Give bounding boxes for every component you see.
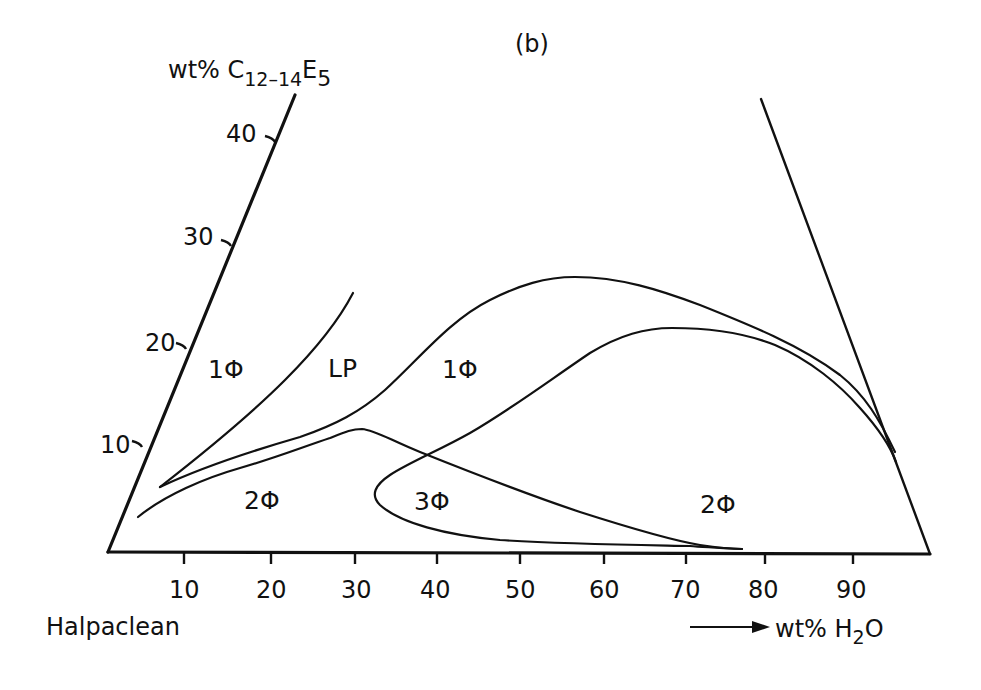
region-label-1phi-center: 1Φ <box>442 355 478 384</box>
panel-label: (b) <box>515 30 549 58</box>
phase-diagram: (b) wt% C12–14E5 10 20 30 40 10 20 30 40… <box>0 0 981 690</box>
bottom-tick-90: 90 <box>836 576 867 604</box>
right-arrow-head-icon <box>752 621 770 633</box>
left-tick-20: 20 <box>145 329 176 357</box>
bottom-axis-title: wt% H2O <box>690 615 884 648</box>
left-axis-title-suffix-subscript: 5 <box>317 66 331 91</box>
bottom-axis-ticks: 10 20 30 40 50 60 70 80 90 <box>169 553 867 604</box>
boundary-1phi-lp <box>160 293 353 487</box>
region-label-1phi-left: 1Φ <box>208 355 244 384</box>
bottom-tick-60: 60 <box>589 576 620 604</box>
left-axis-title-subscript: 12–14 <box>244 68 302 90</box>
left-tick-30: 30 <box>183 223 214 251</box>
bottom-axis-title-prefix: wt% H <box>775 615 853 643</box>
left-axis-title-suffix: E <box>302 56 317 84</box>
left-axis-title: wt% C12–14E5 <box>168 56 331 91</box>
left-axis-line <box>108 95 295 552</box>
region-label-2phi-right: 2Φ <box>700 490 736 519</box>
svg-text:wt% C12–14E5: wt% C12–14E5 <box>168 56 331 91</box>
bottom-tick-10: 10 <box>169 576 200 604</box>
corner-label-halpaclean: Halpaclean <box>46 613 180 641</box>
bottom-tick-20: 20 <box>256 576 287 604</box>
bottom-tick-80: 80 <box>748 576 779 604</box>
bottom-tick-30: 30 <box>341 576 372 604</box>
bottom-tick-40: 40 <box>420 576 451 604</box>
svg-text:wt% H2O: wt% H2O <box>775 615 884 648</box>
boundary-upper-dome <box>160 277 895 487</box>
left-tick-10: 10 <box>100 431 131 459</box>
left-axis-ticks: 10 20 30 40 <box>100 120 275 459</box>
left-tick-40: 40 <box>226 120 257 148</box>
region-label-3phi: 3Φ <box>414 487 450 516</box>
left-axis-title-prefix: wt% C <box>168 56 244 84</box>
region-label-2phi-left: 2Φ <box>244 486 280 515</box>
bottom-tick-70: 70 <box>670 576 701 604</box>
right-axis-line <box>761 99 930 554</box>
bottom-axis-title-subscript: 2 <box>853 626 865 648</box>
region-label-lp: LP <box>328 354 357 383</box>
bottom-axis-title-suffix: O <box>865 615 884 643</box>
bottom-tick-50: 50 <box>505 576 536 604</box>
